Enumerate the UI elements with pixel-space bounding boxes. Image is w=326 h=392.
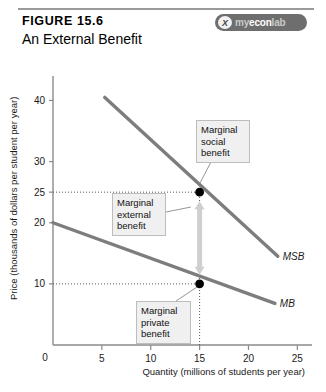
x-tick-label-5: 5 bbox=[99, 353, 105, 364]
x-axis-title: Quantity (millions of students per year) bbox=[142, 366, 305, 377]
y-origin-label: 0 bbox=[42, 352, 48, 363]
y-tick-label-25: 25 bbox=[34, 187, 46, 198]
x-tick-label-15: 15 bbox=[194, 353, 206, 364]
y-axis-ticks: 10202530400 bbox=[34, 95, 53, 363]
y-axis-title: Price (thousands of dollars per student … bbox=[8, 97, 19, 300]
x-axis-ticks: 510152025 bbox=[99, 345, 303, 364]
figure-container: FIGURE 15.6 An External Benefit X myecon… bbox=[0, 0, 326, 392]
curve-label-MSB: MSB bbox=[283, 251, 305, 262]
callout-marginal-private-benefit: Marginal private benefit bbox=[136, 301, 191, 344]
leader-marginal-private-benefit bbox=[176, 285, 200, 301]
x-tick-label-10: 10 bbox=[145, 353, 157, 364]
x-tick-label-25: 25 bbox=[292, 353, 304, 364]
y-tick-label-40: 40 bbox=[34, 95, 46, 106]
external-benefit-arrow bbox=[195, 201, 205, 275]
x-tick-label-20: 20 bbox=[243, 353, 255, 364]
marginal-social-benefit-point bbox=[195, 188, 204, 197]
leader-marginal-external-benefit bbox=[166, 207, 191, 212]
callout-marginal-social-benefit: Marginal social benefit bbox=[196, 120, 250, 163]
callout-marginal-external-benefit: Marginal external benefit bbox=[112, 193, 166, 236]
marginal-private-benefit-point bbox=[195, 279, 204, 288]
y-tick-label-20: 20 bbox=[34, 217, 46, 228]
curve-label-MB: MB bbox=[280, 298, 295, 309]
arrow-head-up bbox=[195, 201, 205, 209]
leader-marginal-social-benefit bbox=[200, 160, 212, 183]
y-tick-label-10: 10 bbox=[34, 278, 46, 289]
y-tick-label-30: 30 bbox=[34, 156, 46, 167]
curve-labels: MSBMB bbox=[280, 251, 305, 309]
